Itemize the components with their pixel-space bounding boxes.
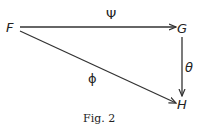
figure-caption: Fig. 2 [83,112,115,125]
edge-label-theta: θ [185,61,193,74]
edge-label-psi: Ψ [106,8,116,21]
node-h: H [177,98,187,111]
node-g: G [177,22,187,35]
node-f: F [6,21,13,34]
edge-label-phi: ϕ [88,72,97,85]
arrow-f-to-h [20,31,176,103]
